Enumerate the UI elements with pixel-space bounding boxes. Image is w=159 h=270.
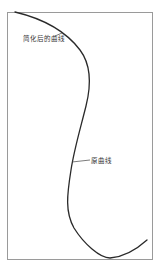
original-curve-leader <box>72 160 90 162</box>
simplified-curve-label: 简化后的曲线 <box>23 36 65 43</box>
original-curve-label: 原曲线 <box>91 158 112 165</box>
curve-path <box>15 12 147 258</box>
